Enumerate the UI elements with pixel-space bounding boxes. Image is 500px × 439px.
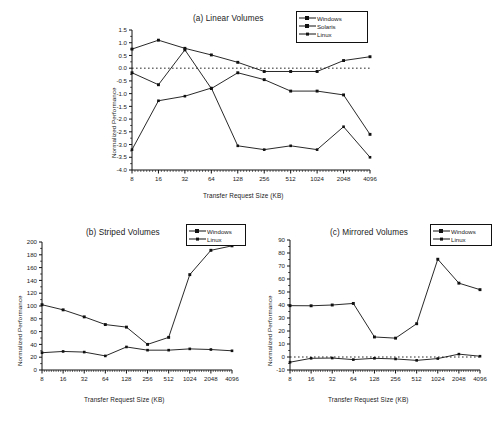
svg-text:256: 256 <box>259 175 270 182</box>
svg-text:40: 40 <box>30 341 37 348</box>
svg-text:120: 120 <box>27 289 38 296</box>
svg-text:-3.0: -3.0 <box>116 141 127 148</box>
svg-text:100: 100 <box>27 302 38 309</box>
svg-text:-4.0: -4.0 <box>116 166 127 173</box>
svg-text:-0.5: -0.5 <box>116 77 127 84</box>
svg-text:80: 80 <box>30 315 37 322</box>
svg-text:256: 256 <box>142 375 153 382</box>
panel-c-y-axis-title: Normalized Performance <box>266 295 273 366</box>
svg-text:16: 16 <box>155 175 162 182</box>
svg-text:-2.5: -2.5 <box>116 128 127 135</box>
legend-swatch-solaris <box>299 22 316 30</box>
panel-a-title: (a) Linear Volumes <box>193 14 264 23</box>
svg-text:1.0: 1.0 <box>119 39 128 46</box>
legend-label-solaris: Solaris <box>316 23 336 30</box>
legend-swatch-linux <box>433 235 450 243</box>
legend-label-windows: Windows <box>206 228 232 235</box>
legend-label-linux: Linux <box>206 236 222 243</box>
legend-item-windows: Windows <box>299 14 364 22</box>
svg-text:512: 512 <box>412 375 423 382</box>
svg-text:0: 0 <box>34 366 38 373</box>
svg-text:160: 160 <box>27 264 38 271</box>
legend-swatch-linux <box>189 235 206 243</box>
svg-text:8: 8 <box>40 375 44 382</box>
svg-text:140: 140 <box>27 277 38 284</box>
legend-swatch-windows <box>299 14 316 22</box>
legend-label-linux: Linux <box>316 31 332 38</box>
svg-text:64: 64 <box>350 375 357 382</box>
chart-panel-striped-volumes: (b) Striped Volumes Windows Linux 020406… <box>8 218 248 418</box>
chart-panel-linear-volumes: (a) Linear Volumes Windows Solaris <box>100 8 400 203</box>
svg-text:180: 180 <box>27 251 38 258</box>
legend-label-windows: Windows <box>316 15 342 22</box>
panel-a-y-axis-title: Normalized Performance <box>110 87 117 158</box>
svg-text:-3.5: -3.5 <box>116 153 127 160</box>
legend-item-windows: Windows <box>433 227 488 235</box>
svg-text:70: 70 <box>278 262 285 269</box>
svg-text:32: 32 <box>81 375 88 382</box>
legend-item-linux: Linux <box>189 235 242 243</box>
legend-item-linux: Linux <box>299 30 364 38</box>
svg-text:2048: 2048 <box>337 175 351 182</box>
svg-text:256: 256 <box>390 375 401 382</box>
svg-text:0: 0 <box>282 353 286 360</box>
svg-text:128: 128 <box>121 375 132 382</box>
svg-text:4096: 4096 <box>473 375 487 382</box>
svg-text:128: 128 <box>233 175 244 182</box>
svg-text:20: 20 <box>30 353 37 360</box>
svg-text:4096: 4096 <box>225 375 239 382</box>
legend-label-linux: Linux <box>450 236 466 243</box>
legend-item-solaris: Solaris <box>299 22 364 30</box>
panel-a-x-axis-title: Transfer Request Size (KB) <box>203 192 284 199</box>
svg-text:8: 8 <box>130 175 134 182</box>
svg-text:16: 16 <box>308 375 315 382</box>
svg-text:1024: 1024 <box>431 375 445 382</box>
legend-item-windows: Windows <box>189 227 242 235</box>
panel-b-x-axis-title: Transfer Request Size (KB) <box>84 396 165 403</box>
svg-text:16: 16 <box>60 375 67 382</box>
panel-b-title: (b) Striped Volumes <box>86 228 160 237</box>
svg-text:64: 64 <box>208 175 215 182</box>
svg-text:50: 50 <box>278 288 285 295</box>
svg-text:32: 32 <box>181 175 188 182</box>
svg-text:10: 10 <box>278 340 285 347</box>
panel-c-legend: Windows Linux <box>430 224 492 246</box>
chart-panel-mirrored-volumes: (c) Mirrored Volumes Windows Linux -1001… <box>258 218 498 418</box>
legend-swatch-windows <box>189 227 206 235</box>
panel-a-legend: Windows Solaris Linux <box>296 11 368 43</box>
svg-text:2048: 2048 <box>452 375 466 382</box>
svg-text:60: 60 <box>278 275 285 282</box>
svg-text:1.5: 1.5 <box>119 26 128 33</box>
figure-root: (a) Linear Volumes Windows Solaris <box>0 0 500 439</box>
svg-text:512: 512 <box>286 175 297 182</box>
svg-text:30: 30 <box>278 314 285 321</box>
legend-item-linux: Linux <box>433 235 488 243</box>
panel-c-x-axis-title: Transfer Request Size (KB) <box>328 396 409 403</box>
svg-text:0.5: 0.5 <box>119 52 128 59</box>
legend-swatch-windows <box>433 227 450 235</box>
svg-text:1024: 1024 <box>310 175 324 182</box>
svg-text:4096: 4096 <box>363 175 377 182</box>
panel-c-title: (c) Mirrored Volumes <box>330 228 408 237</box>
svg-text:128: 128 <box>369 375 380 382</box>
svg-text:-1.5: -1.5 <box>116 103 127 110</box>
svg-text:90: 90 <box>278 236 285 243</box>
svg-text:40: 40 <box>278 301 285 308</box>
legend-swatch-linux <box>299 30 316 38</box>
svg-text:8: 8 <box>288 375 292 382</box>
panel-b-legend: Windows Linux <box>186 224 246 246</box>
svg-text:-10: -10 <box>276 366 285 373</box>
svg-text:-1.0: -1.0 <box>116 90 127 97</box>
panel-b-y-axis-title: Normalized Performance <box>16 295 23 366</box>
svg-text:32: 32 <box>329 375 336 382</box>
svg-text:0.0: 0.0 <box>119 64 128 71</box>
svg-text:2048: 2048 <box>204 375 218 382</box>
svg-text:20: 20 <box>278 327 285 334</box>
svg-text:60: 60 <box>30 328 37 335</box>
svg-text:-2.0: -2.0 <box>116 115 127 122</box>
svg-text:64: 64 <box>102 375 109 382</box>
svg-text:80: 80 <box>278 249 285 256</box>
legend-label-windows: Windows <box>450 228 476 235</box>
svg-text:1024: 1024 <box>183 375 197 382</box>
svg-text:512: 512 <box>164 375 175 382</box>
